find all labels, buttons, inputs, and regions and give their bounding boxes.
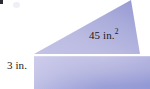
geometry-figure: 45 in.2 3 in. bbox=[0, 0, 150, 89]
composite-shape-svg bbox=[0, 0, 150, 89]
rectangle-shading-overlay bbox=[34, 56, 150, 89]
corner-artifact-mark bbox=[0, 0, 3, 4]
area-label-value: 45 in. bbox=[89, 29, 115, 41]
area-label: 45 in.2 bbox=[89, 30, 119, 41]
divider-line bbox=[32, 54, 150, 56]
height-label: 3 in. bbox=[7, 60, 27, 71]
area-label-exponent: 2 bbox=[115, 27, 119, 36]
corner-artifact-smudge bbox=[13, 2, 20, 8]
triangle-shape bbox=[34, 0, 140, 54]
